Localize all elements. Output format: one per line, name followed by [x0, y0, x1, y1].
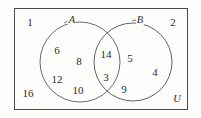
- universal-set-label: U: [173, 94, 181, 105]
- element-b-only-5: 5: [127, 53, 133, 64]
- venn-diagram-figure: A B U 1 2 16 6 8 12 10 14 3 5 4 9: [0, 0, 201, 118]
- element-outside-2: 2: [170, 17, 176, 28]
- set-a-label: A: [68, 15, 76, 26]
- element-intersection-14: 14: [101, 49, 112, 60]
- element-intersection-3: 3: [103, 72, 109, 83]
- element-a-only-12: 12: [52, 74, 63, 85]
- element-a-only-6: 6: [54, 45, 60, 56]
- element-outside-1: 1: [27, 17, 33, 28]
- element-b-only-9: 9: [121, 84, 127, 95]
- element-a-only-8: 8: [76, 56, 82, 67]
- set-b-label: B: [136, 15, 144, 26]
- element-b-only-4: 4: [152, 67, 158, 78]
- element-a-only-10: 10: [73, 85, 84, 96]
- element-outside-16: 16: [23, 88, 34, 99]
